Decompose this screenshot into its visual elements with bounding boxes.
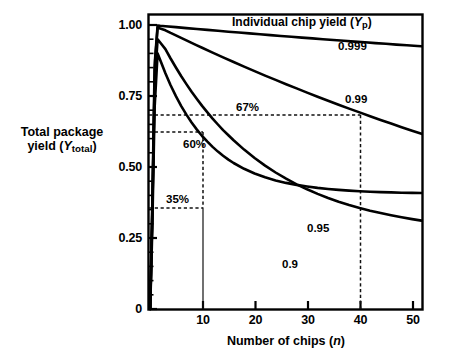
- curve-label-0999: 0.999: [338, 40, 367, 53]
- y-tick-label-0: 0: [98, 302, 142, 316]
- x-axis-title: Number of chips (n): [148, 334, 424, 348]
- x-axis-title-symbol: n: [333, 334, 341, 348]
- y-axis-title-symbol: Y: [64, 139, 72, 153]
- x-tick-label-50: 50: [399, 313, 427, 327]
- y-axis-title: Total package yield (Ytotal): [6, 125, 118, 155]
- annotation-35-percent: 35%: [166, 193, 189, 206]
- yield-chart-figure: 1.00 0.75 0.50 0.25 0 10 20 30 40 50 Tot…: [0, 0, 450, 360]
- legend-symbol: Y: [354, 15, 362, 29]
- y-axis-title-line1: Total package: [21, 125, 103, 139]
- y-tick-label-1: 1.00: [98, 18, 142, 32]
- x-axis-title-suffix: ): [341, 334, 345, 348]
- y-tick-label-025: 0.25: [98, 231, 142, 245]
- y-axis-title-prefix: yield (: [27, 139, 63, 153]
- legend-individual-chip-yield: Individual chip yield (Yp): [232, 16, 372, 31]
- x-tick-label-20: 20: [242, 313, 270, 327]
- curve-label-09: 0.9: [282, 258, 298, 271]
- curve-label-099: 0.99: [345, 93, 367, 106]
- x-tick-label-40: 40: [347, 313, 375, 327]
- y-tick-label-075: 0.75: [98, 89, 142, 103]
- curve-label-095: 0.95: [307, 222, 329, 235]
- y-axis-title-suffix: ): [92, 139, 96, 153]
- annotation-67-percent: 67%: [236, 101, 259, 114]
- x-axis-title-prefix: Number of chips (: [227, 334, 333, 348]
- y-axis-title-subscript: total: [72, 144, 93, 155]
- y-tick-label-050: 0.50: [98, 160, 142, 174]
- legend-prefix: Individual chip yield (: [232, 15, 354, 29]
- legend-suffix: ): [368, 15, 372, 29]
- annotation-guides: [149, 115, 361, 309]
- x-axis-major-ticks: [203, 301, 413, 309]
- x-tick-label-10: 10: [189, 313, 217, 327]
- x-tick-label-30: 30: [294, 313, 322, 327]
- plot-area: [0, 0, 450, 360]
- annotation-60-percent: 60%: [183, 138, 206, 151]
